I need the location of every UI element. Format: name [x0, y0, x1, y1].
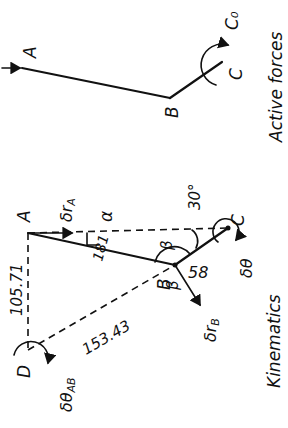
label-30deg: 30°: [186, 183, 204, 210]
link-BC: [170, 62, 222, 98]
label-delta-theta-AB: δθAB: [57, 377, 78, 412]
label-alpha: α: [96, 211, 116, 222]
joint-B: [173, 263, 178, 268]
dim-BC: 58: [188, 263, 208, 282]
label-B-top: B: [162, 106, 182, 118]
kinematics-diagram: A B C D δrA δrB δθ δθAB α β β 30° 105.71…: [8, 183, 284, 412]
arc-30deg: [192, 230, 198, 248]
label-A: A: [14, 210, 34, 223]
label-C: C: [228, 214, 248, 226]
label-D: D: [14, 365, 34, 378]
moment-arrow-C0: [201, 44, 228, 85]
label-delta-rA: δrA: [57, 198, 78, 222]
link-AB: [22, 68, 170, 98]
label-delta-theta: δθ: [237, 258, 256, 278]
label-A-top: A: [20, 46, 40, 59]
label-beta-1: β: [158, 240, 176, 251]
active-forces-diagram: A B C C₀ Active forces: [2, 11, 286, 143]
caption-kinematics: Kinematics: [264, 294, 284, 388]
caption-active-forces: Active forces: [266, 32, 286, 143]
label-C0: C₀: [222, 11, 242, 30]
arc-delta-theta-AB: [14, 342, 48, 363]
link-BC: [175, 228, 228, 265]
label-beta-2: β: [164, 280, 182, 291]
diagram-canvas: A B C C₀ Active forces A B C D δrA δrB δ…: [0, 0, 288, 428]
dim-DB: 153.43: [79, 317, 133, 359]
label-C-top: C: [226, 68, 246, 80]
dim-AB: 181: [89, 233, 111, 263]
label-delta-rB: δrB: [201, 318, 222, 342]
dim-AD: 105.71: [8, 264, 26, 317]
